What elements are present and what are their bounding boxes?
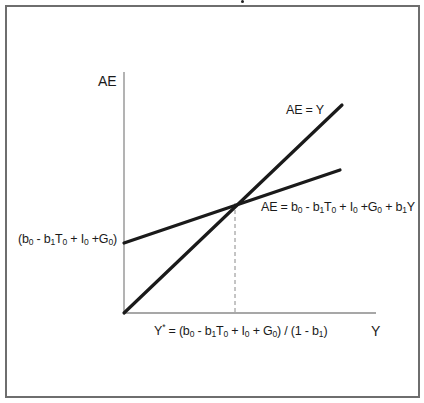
intercept-label: (b0 - b1T0 + I0 +G0) [18,232,117,247]
equilibrium-label: Y* = (b0 - b1T0 + I0 + G0) / (1 - b1) [154,322,327,339]
y-axis-label: AE [98,73,116,89]
x-axis-label: Y [371,323,380,339]
ae-function-label: AE = b0 - b1T0 + I0 +G0 + b1Y [261,200,415,215]
line-45-label: AE = Y [286,103,324,117]
